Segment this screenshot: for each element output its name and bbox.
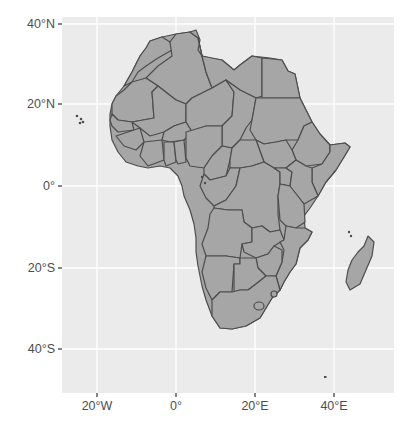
africa-map-plot: 40°N 20°N 0° 20°S 40°S 20°W 0° 20°E 40°E	[0, 0, 410, 432]
x-axis-labels: 20°W 0° 20°E 40°E	[82, 399, 348, 413]
x-tick-label: 40°E	[320, 399, 347, 413]
y-axis-labels: 40°N 20°N 0° 20°S 40°S	[27, 17, 55, 356]
island-sao-tome	[201, 176, 203, 178]
x-tick-label: 20°E	[241, 399, 268, 413]
island-cape-verde	[80, 118, 83, 121]
y-tick-label: 40°N	[27, 17, 55, 31]
country-eswatini	[271, 291, 277, 297]
island-principe	[204, 182, 206, 184]
island-prince-edward	[324, 376, 327, 378]
y-tick-label: 20°N	[27, 97, 55, 111]
island-cape-verde	[82, 121, 85, 124]
y-tick-label: 0°	[43, 179, 55, 193]
island-comoros	[348, 231, 350, 233]
y-tick-label: 40°S	[28, 342, 55, 356]
country-togo-benin	[174, 140, 186, 164]
x-tick-label: 0°	[170, 399, 182, 413]
island-comoros	[350, 235, 352, 237]
country-lesotho	[254, 302, 264, 310]
island-cape-verde	[79, 122, 82, 125]
y-tick-label: 20°S	[28, 261, 55, 275]
island-cape-verde	[76, 115, 79, 118]
x-tick-label: 20°W	[82, 399, 113, 413]
